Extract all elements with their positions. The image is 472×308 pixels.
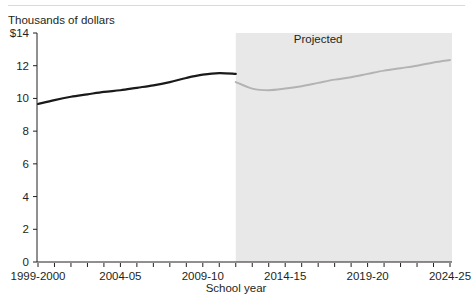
svg-text:2: 2 [23,223,29,235]
y-axis-ticks: 024681012$14 [10,27,37,268]
chart-plot-area: 024681012$14 1999-20002004-052009-102014… [0,0,472,308]
svg-text:10: 10 [16,92,29,104]
svg-text:2019-20: 2019-20 [346,270,388,282]
x-axis-title: School year [0,282,472,294]
chart-annotations: Projected [294,33,343,45]
svg-text:8: 8 [23,125,29,137]
svg-text:2024-25: 2024-25 [429,270,471,282]
svg-text:Projected: Projected [294,33,343,45]
svg-text:6: 6 [23,158,29,170]
projection-shaded-band [236,33,452,262]
svg-text:2004-05: 2004-05 [99,270,141,282]
svg-text:4: 4 [23,191,30,203]
svg-text:2009-10: 2009-10 [182,270,224,282]
svg-text:12: 12 [16,60,29,72]
svg-text:$14: $14 [10,27,30,39]
x-axis-ticks: 1999-20002004-052009-102014-152019-20202… [11,263,472,282]
svg-text:0: 0 [23,256,29,268]
chart-figure: Thousands of dollars 024681012$14 1999-2… [0,0,472,308]
svg-text:1999-2000: 1999-2000 [11,270,66,282]
svg-text:2014-15: 2014-15 [264,270,306,282]
